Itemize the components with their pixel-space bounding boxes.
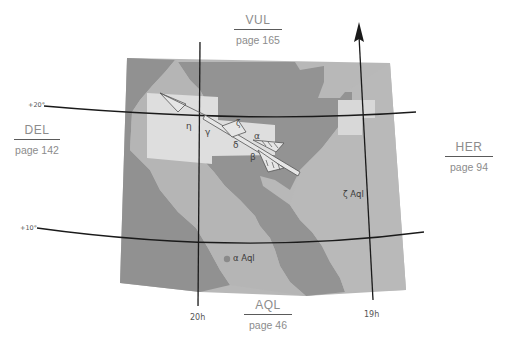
label-alpha-aql: α Aql <box>233 253 255 263</box>
nav-west-abbr: DEL <box>12 123 62 139</box>
nav-north-abbr: VUL <box>228 13 288 29</box>
star-label-gamma: γ <box>205 127 210 137</box>
nav-west-divider <box>14 139 60 140</box>
label-zeta-aql: ζ Aql <box>343 189 364 199</box>
nav-south-page[interactable]: page 46 <box>238 319 298 331</box>
star-label-eta: η <box>186 121 192 131</box>
nav-north-page[interactable]: page 165 <box>228 34 288 46</box>
nav-north-vul[interactable]: VUL page 165 <box>228 13 288 46</box>
star-alpha-aql-dot <box>224 256 230 262</box>
star-label-delta: δ <box>233 140 239 150</box>
nav-west-del[interactable]: DEL page 142 <box>12 123 62 156</box>
nav-west-page[interactable]: page 142 <box>12 144 62 156</box>
nav-east-divider <box>445 156 493 157</box>
dec-label-plus10: +10° <box>20 224 37 232</box>
nav-south-aql[interactable]: AQL page 46 <box>238 298 298 331</box>
dec-label-plus20: +20° <box>28 101 45 109</box>
star-label-alpha: α <box>254 131 260 141</box>
nav-east-her[interactable]: HER page 94 <box>440 140 498 173</box>
nav-south-divider <box>244 314 292 315</box>
nav-east-page[interactable]: page 94 <box>440 161 498 173</box>
star-label-beta: β <box>250 152 256 162</box>
nav-south-abbr: AQL <box>238 298 298 314</box>
star-label-zeta: ζ <box>236 119 240 128</box>
ra-label-20h: 20h <box>190 313 205 322</box>
ra-label-19h: 19h <box>364 310 379 319</box>
star-chart <box>0 0 508 346</box>
nav-north-divider <box>234 29 282 30</box>
nav-east-abbr: HER <box>440 140 498 156</box>
north-arrow-icon <box>354 22 364 42</box>
